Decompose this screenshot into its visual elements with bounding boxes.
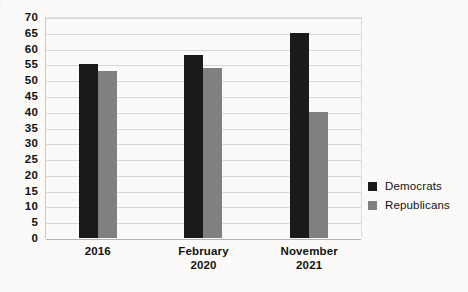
y-axis-tick-5: 5 [31, 216, 38, 228]
legend-item-republicans[interactable]: Republicans [368, 199, 450, 211]
chart-legend: DemocratsRepublicans [368, 180, 450, 218]
y-axis-tick-10: 10 [25, 200, 38, 212]
bar-groups [45, 17, 362, 238]
y-axis-tick-50: 50 [25, 74, 38, 86]
bar-democrats-2[interactable] [290, 33, 309, 238]
x-axis-label-line: 2021 [256, 258, 362, 272]
bar-democrats-0[interactable] [79, 64, 98, 238]
y-axis-tick-15: 15 [25, 185, 38, 197]
y-axis-tick-70: 70 [25, 11, 38, 23]
x-axis-label-line: 2020 [151, 258, 257, 272]
y-axis-tick-65: 65 [25, 27, 38, 39]
gridline-0 [46, 239, 361, 240]
y-axis-tick-55: 55 [25, 58, 38, 70]
y-axis-tick-40: 40 [25, 106, 38, 118]
legend-swatch-icon-rep [368, 201, 377, 210]
grouped-bar-chart: 7065605550454035302520151050 2016Februar… [0, 0, 468, 292]
bar-republicans-0[interactable] [98, 71, 117, 238]
y-axis-tick-25: 25 [25, 153, 38, 165]
legend-label: Democrats [385, 180, 442, 192]
x-axis-label-0: 2016 [45, 244, 151, 258]
x-axis-label-line: November [256, 244, 362, 258]
bar-republicans-2[interactable] [309, 112, 328, 238]
bar-group-0 [45, 17, 151, 238]
y-axis-tick-labels: 7065605550454035302520151050 [0, 0, 45, 260]
x-axis-label-line: February [151, 244, 257, 258]
y-axis-tick-45: 45 [25, 90, 38, 102]
bar-democrats-1[interactable] [184, 55, 203, 238]
y-axis-tick-30: 30 [25, 137, 38, 149]
bar-group-1 [151, 17, 257, 238]
legend-item-democrats[interactable]: Democrats [368, 180, 450, 192]
x-axis-label-line: 2016 [45, 244, 151, 258]
y-axis-tick-35: 35 [25, 122, 38, 134]
y-axis-tick-60: 60 [25, 43, 38, 55]
y-axis-tick-20: 20 [25, 169, 38, 181]
bar-group-2 [256, 17, 362, 238]
legend-label: Republicans [385, 199, 450, 211]
x-axis-label-1: February2020 [151, 244, 257, 272]
x-axis-label-2: November2021 [256, 244, 362, 272]
bar-republicans-1[interactable] [203, 68, 222, 238]
y-axis-tick-0: 0 [31, 232, 38, 244]
legend-swatch-icon-dem [368, 182, 377, 191]
